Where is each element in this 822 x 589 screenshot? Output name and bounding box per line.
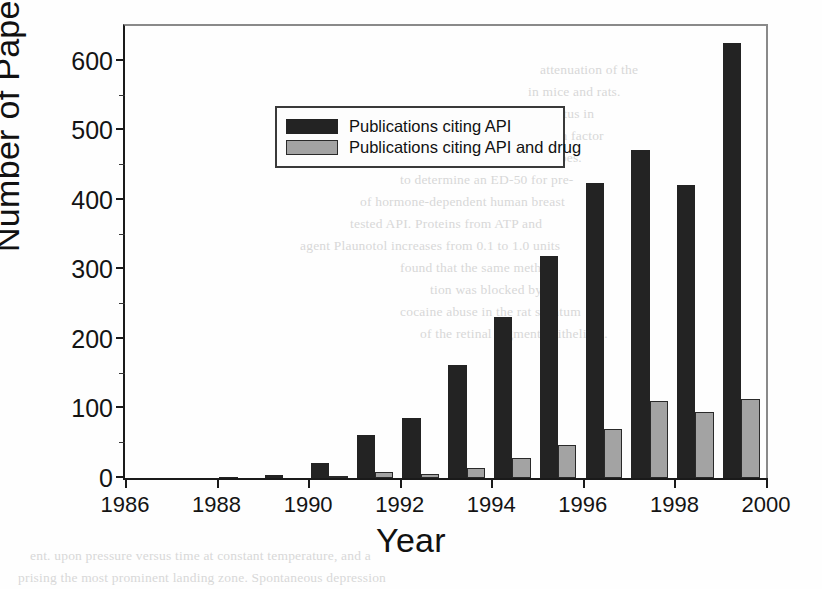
bar-series-container bbox=[125, 26, 766, 478]
bar bbox=[695, 412, 713, 478]
legend-item: Publications citing API bbox=[286, 116, 554, 136]
bar bbox=[375, 472, 393, 478]
bar bbox=[540, 256, 558, 478]
x-axis-tick bbox=[491, 478, 493, 488]
ghost-line: prising the most prominent landing zone.… bbox=[18, 570, 386, 586]
plot-area: 0100200300400500600 19861988199019921994… bbox=[123, 24, 768, 480]
bar bbox=[402, 418, 420, 478]
y-axis-tick-label: 600 bbox=[71, 46, 113, 75]
x-axis-tick-label: 1998 bbox=[650, 492, 699, 518]
x-axis-tick-label: 1990 bbox=[284, 492, 333, 518]
bar bbox=[219, 477, 237, 478]
bar bbox=[311, 463, 329, 478]
y-axis-tick-label: 0 bbox=[99, 464, 113, 493]
y-axis-tick bbox=[116, 267, 125, 269]
bar bbox=[677, 185, 695, 478]
x-axis-tick bbox=[674, 478, 676, 488]
bar bbox=[558, 445, 576, 478]
x-axis-tick bbox=[217, 478, 219, 488]
x-axis-tick bbox=[308, 478, 310, 488]
x-axis-tick-label: 2000 bbox=[742, 492, 791, 518]
bar bbox=[448, 365, 466, 478]
x-axis-title: Year bbox=[0, 521, 822, 560]
y-axis-tick bbox=[116, 128, 125, 130]
x-axis-tick-label: 1988 bbox=[192, 492, 241, 518]
y-axis-tick-label: 200 bbox=[71, 324, 113, 353]
figure-bar-chart: attenuation of the in mice and rats. of … bbox=[0, 0, 822, 589]
bar bbox=[741, 399, 759, 478]
legend-item-label: Publications citing API bbox=[349, 117, 511, 136]
x-axis-tick bbox=[583, 478, 585, 488]
legend-swatch-icon bbox=[286, 140, 338, 155]
x-axis-tick-label: 1994 bbox=[467, 492, 516, 518]
legend-swatch-icon bbox=[286, 119, 338, 134]
y-axis-tick bbox=[116, 198, 125, 200]
bar bbox=[604, 429, 622, 478]
y-axis-tick bbox=[116, 59, 125, 61]
x-axis-tick bbox=[400, 478, 402, 488]
bar bbox=[421, 474, 439, 478]
bar bbox=[631, 150, 649, 478]
y-axis-tick-label: 400 bbox=[71, 185, 113, 214]
bar bbox=[329, 476, 347, 478]
y-axis-tick-label: 300 bbox=[71, 255, 113, 284]
y-axis-tick-label: 500 bbox=[71, 116, 113, 145]
x-axis-tick bbox=[125, 478, 127, 488]
legend-item: Publications citing API and drug bbox=[286, 137, 554, 157]
y-axis-tick-label: 100 bbox=[71, 394, 113, 423]
bar bbox=[586, 183, 604, 478]
bar bbox=[357, 435, 375, 478]
x-axis-tick-label: 1996 bbox=[558, 492, 607, 518]
x-axis-tick-label: 1992 bbox=[375, 492, 424, 518]
y-axis-tick bbox=[116, 476, 125, 478]
bar bbox=[512, 458, 530, 478]
y-axis-tick bbox=[116, 337, 125, 339]
bar bbox=[723, 43, 741, 478]
bar bbox=[494, 317, 512, 478]
bar bbox=[265, 475, 283, 478]
legend-item-label: Publications citing API and drug bbox=[349, 138, 581, 157]
bar bbox=[650, 401, 668, 478]
y-axis-tick bbox=[116, 406, 125, 408]
y-axis-title: Number of Papers bbox=[0, 0, 27, 252]
x-axis-tick bbox=[766, 478, 768, 488]
x-axis-tick-label: 1986 bbox=[101, 492, 150, 518]
legend: Publications citing API Publications cit… bbox=[275, 106, 565, 168]
bar bbox=[467, 468, 485, 478]
